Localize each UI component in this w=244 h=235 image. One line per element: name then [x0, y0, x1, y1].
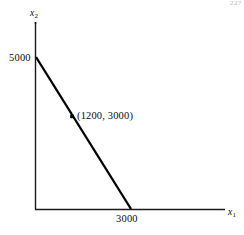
y-axis-label-subscript: 2	[35, 12, 39, 20]
x-axis-label: x1	[228, 208, 236, 219]
page-number: 227	[230, 0, 242, 7]
y-axis-label-text: x	[30, 8, 34, 18]
y-axis-label: x2	[30, 9, 38, 20]
data-point-marker	[70, 115, 74, 119]
x-axis-label-text: x	[228, 207, 232, 217]
data-point-annotation: (1200, 3000)	[77, 111, 133, 122]
y-axis-tick-label-5000: 5000	[9, 53, 31, 64]
constraint-line	[36, 57, 131, 209]
x-axis-tick-label-3000: 3000	[116, 214, 138, 225]
x-axis-label-subscript: 1	[233, 211, 237, 219]
figure-container: 5000 3000 x2 x1 (1200, 3000) 227	[0, 0, 244, 235]
